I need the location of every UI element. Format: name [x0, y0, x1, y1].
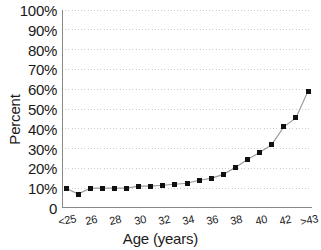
- x-axis-tick-label: 30: [133, 213, 147, 227]
- chart-figure: Percent 100%90%80%70%60%50%40%30%20%10%0…: [0, 0, 321, 250]
- x-axis-tick-label: 38: [230, 213, 244, 227]
- x-axis-tick-label: 28: [109, 213, 123, 227]
- x-axis-tick-label: >43: [299, 212, 319, 227]
- x-axis-tick-label: 42: [278, 213, 292, 227]
- x-axis-tick-label: 26: [84, 213, 98, 227]
- x-axis-tick-label: 40: [254, 213, 268, 227]
- x-axis-tick-label: <25: [57, 212, 77, 227]
- x-axis-tick-label: 36: [205, 213, 219, 227]
- x-axis-tick-label: 34: [181, 213, 195, 227]
- x-axis-tick-label: 32: [157, 213, 171, 227]
- x-axis-tick-labels: <25262830323436384042>43: [0, 0, 321, 250]
- x-axis-title: Age (years): [0, 230, 321, 247]
